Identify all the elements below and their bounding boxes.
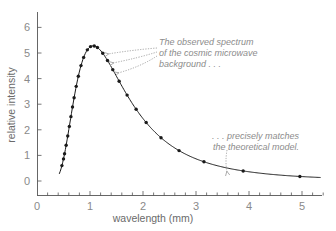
x-tick-label: 1 (87, 200, 93, 212)
data-point (82, 56, 85, 59)
data-point (111, 68, 114, 71)
data-point (75, 85, 78, 88)
data-point (64, 144, 67, 147)
data-point (93, 44, 96, 47)
data-point (134, 108, 137, 111)
data-point (117, 79, 120, 82)
data-point (177, 149, 180, 152)
data-point (202, 160, 205, 163)
data-point (68, 125, 71, 128)
data-point (106, 59, 109, 62)
annotation-model: . . . precisely matches the theoretical … (212, 131, 300, 152)
x-tick-label: 3 (193, 200, 199, 212)
data-point (77, 75, 80, 78)
data-point (66, 134, 69, 137)
y-tick-label: 1 (24, 149, 30, 161)
data-point (96, 46, 99, 49)
annotation-line: The observed spectrum (159, 37, 254, 47)
y-axis-ticks (38, 27, 42, 181)
data-point (159, 136, 162, 139)
data-point (101, 52, 104, 55)
annotation-line: background . . . (159, 59, 221, 69)
data-point (125, 93, 128, 96)
cmb-spectrum-chart: 0 1 2 3 4 5 6 0 1 2 3 4 5 wavelength (mm… (0, 0, 336, 231)
y-tick-label: 0 (24, 175, 30, 187)
data-point (241, 169, 244, 172)
y-axis-title: relative intensity (5, 67, 17, 143)
x-tick-label: 2 (140, 200, 146, 212)
data-point (144, 121, 147, 124)
annotation-line: . . . precisely matches (212, 131, 300, 141)
x-tick-label: 5 (299, 200, 305, 212)
annotation-observed: The observed spectrum of the cosmic micr… (159, 37, 258, 69)
x-tick-label: 0 (34, 200, 40, 212)
x-tick-label: 4 (246, 200, 252, 212)
annotation-line: the theoretical model. (213, 142, 299, 152)
y-tick-label: 6 (24, 21, 30, 33)
y-tick-label: 5 (24, 47, 30, 59)
arrow-to-point-1 (108, 48, 157, 54)
annotation-line: of the cosmic microwave (159, 48, 258, 58)
data-point (86, 48, 89, 51)
arrow-to-point-3 (118, 56, 157, 73)
y-tick-label: 3 (24, 98, 30, 110)
data-point (60, 164, 63, 167)
x-axis-title: wavelength (mm) (112, 212, 194, 224)
data-point (72, 96, 75, 99)
y-tick-label: 4 (24, 73, 30, 85)
data-point (89, 45, 92, 48)
arrow-to-model-curve (226, 150, 227, 172)
arrow-to-point-2 (113, 52, 157, 63)
x-axis-ticks (48, 191, 324, 196)
data-point (298, 175, 301, 178)
data-point (69, 115, 72, 118)
data-point (62, 157, 65, 160)
data-point (71, 105, 74, 108)
data-point (63, 152, 66, 155)
y-tick-label: 2 (24, 124, 30, 136)
data-point (79, 64, 82, 67)
y-tick-labels: 0 1 2 3 4 5 6 (24, 21, 30, 187)
x-tick-labels: 0 1 2 3 4 5 (34, 200, 305, 212)
